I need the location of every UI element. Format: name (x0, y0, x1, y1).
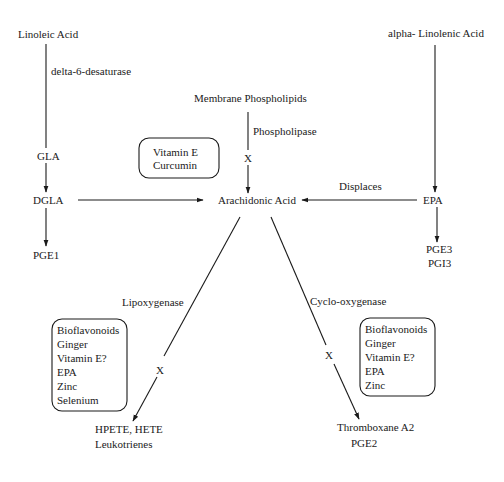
inhibit-mark-lipoxygenase: X (156, 364, 164, 376)
inhibitor-item: EPA (57, 366, 77, 378)
inhibit-mark-phospholipase: X (244, 152, 252, 164)
inhibitor-item: EPA (365, 365, 385, 377)
node-arachidonic-acid: Arachidonic Acid (218, 194, 296, 206)
node-leukotrienes: Leukotrienes (95, 438, 152, 450)
node-pge1: PGE1 (33, 249, 59, 261)
box-lipoxygenase-inhibitors: Bioflavonoids Ginger Vitamin E? EPA Zinc… (52, 319, 127, 411)
inhibitor-item: Vitamin E (153, 146, 198, 158)
label-phospholipase: Phospholipase (253, 125, 317, 137)
node-pge2: PGE2 (351, 437, 377, 449)
edge-arachidonic-to-hpete-bottom (133, 377, 157, 421)
label-displaces: Displaces (339, 180, 382, 192)
box-phospholipase-inhibitors: Vitamin E Curcumin (139, 138, 219, 178)
node-hpete-hete: HPETE, HETE (95, 423, 163, 435)
inhibitor-item: Vitamin E? (57, 352, 107, 364)
inhibitor-item: Curcumin (153, 159, 197, 171)
node-epa: EPA (423, 194, 443, 206)
node-thromboxane-a2: Thromboxane A2 (337, 421, 414, 433)
inhibitor-item: Bioflavonoids (57, 324, 119, 336)
box-cyclooxygenase-inhibitors: Bioflavonoids Ginger Vitamin E? EPA Zinc (360, 318, 435, 396)
inhibitor-item: Zinc (365, 379, 385, 391)
inhibitor-item: Bioflavonoids (365, 323, 427, 335)
edge-arachidonic-to-hpete-top (164, 217, 240, 356)
node-gla: GLA (37, 150, 60, 162)
fatty-acid-pathway-diagram: Linoleic Acid alpha- Linolenic Acid Memb… (0, 0, 504, 482)
inhibit-mark-cyclooxygenase: X (325, 349, 333, 361)
edge-arachidonic-to-thromboxane-bottom (334, 364, 359, 419)
inhibitor-item: Ginger (57, 338, 88, 350)
inhibitor-item: Zinc (57, 380, 77, 392)
node-linoleic-acid: Linoleic Acid (18, 28, 79, 40)
node-dgla: DGLA (33, 194, 64, 206)
node-pgi3: PGI3 (428, 257, 452, 269)
edge-arachidonic-to-thromboxane-top (271, 217, 326, 345)
inhibitor-item: Selenium (57, 394, 99, 406)
label-delta-6-desaturase: delta-6-desaturase (51, 65, 131, 77)
node-membrane-phospholipids: Membrane Phospholipids (194, 92, 307, 104)
node-alpha-linolenic-acid: alpha- Linolenic Acid (388, 27, 484, 39)
label-lipoxygenase: Lipoxygenase (122, 296, 184, 308)
inhibitor-item: Ginger (365, 337, 396, 349)
label-cyclo-oxygenase: Cyclo-oxygenase (310, 295, 386, 307)
node-pge3: PGE3 (426, 243, 453, 255)
inhibitor-item: Vitamin E? (365, 351, 415, 363)
